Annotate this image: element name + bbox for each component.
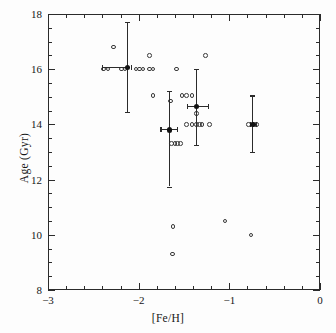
- x-major-tick-bottom: [139, 283, 140, 290]
- data-point-open-circle: [249, 233, 254, 238]
- x-minor-tick-bottom: [193, 286, 194, 290]
- y-minor-tick-right: [316, 276, 320, 277]
- x-minor-tick-bottom: [175, 286, 176, 290]
- x-minor-tick-top: [157, 14, 158, 18]
- y-minor-tick-left: [48, 221, 52, 222]
- error-bar-cap-bottom: [194, 145, 199, 146]
- x-minor-tick-top: [266, 14, 267, 18]
- x-minor-tick-top: [284, 14, 285, 18]
- y-minor-tick-left: [48, 166, 52, 167]
- y-minor-tick-right: [316, 207, 320, 208]
- data-point-open-circle: [178, 141, 183, 146]
- y-minor-tick-left: [48, 207, 52, 208]
- y-major-tick-right: [313, 180, 320, 181]
- y-minor-tick-left: [48, 55, 52, 56]
- y-tick-label: 18: [20, 8, 42, 20]
- y-minor-tick-right: [316, 166, 320, 167]
- error-bar-vertical: [169, 91, 170, 186]
- data-point-binned-mean: [167, 127, 172, 132]
- x-minor-tick-top: [84, 14, 85, 18]
- y-minor-tick-right: [316, 221, 320, 222]
- x-axis-title: [Fe/H]: [0, 312, 336, 324]
- x-major-tick-top: [48, 14, 49, 21]
- y-minor-tick-left: [48, 28, 52, 29]
- y-major-tick-left: [48, 124, 55, 125]
- data-point-open-circle: [184, 93, 189, 98]
- data-point-open-circle: [151, 93, 156, 98]
- y-minor-tick-left: [48, 193, 52, 194]
- x-tick-label: −1: [223, 294, 235, 306]
- x-minor-tick-bottom: [121, 286, 122, 290]
- data-point-open-circle: [190, 93, 195, 98]
- y-minor-tick-right: [316, 152, 320, 153]
- data-point-open-circle: [184, 122, 189, 127]
- x-minor-tick-bottom: [266, 286, 267, 290]
- y-minor-tick-right: [316, 249, 320, 250]
- y-minor-tick-left: [48, 97, 52, 98]
- data-point-open-circle: [141, 67, 146, 72]
- x-minor-tick-bottom: [247, 286, 248, 290]
- y-minor-tick-right: [316, 138, 320, 139]
- y-minor-tick-left: [48, 276, 52, 277]
- y-minor-tick-left: [48, 262, 52, 263]
- y-minor-tick-left: [48, 138, 52, 139]
- error-bar-cap-top: [250, 95, 255, 96]
- error-bar-cap-right: [208, 104, 209, 109]
- y-minor-tick-left: [48, 42, 52, 43]
- error-bar-cap-bottom: [250, 152, 255, 153]
- x-major-tick-bottom: [48, 283, 49, 290]
- x-minor-tick-bottom: [84, 286, 85, 290]
- x-minor-tick-top: [193, 14, 194, 18]
- x-minor-tick-bottom: [66, 286, 67, 290]
- y-minor-tick-right: [316, 55, 320, 56]
- y-major-tick-right: [313, 14, 320, 15]
- y-major-tick-left: [48, 290, 55, 291]
- y-major-tick-left: [48, 180, 55, 181]
- x-major-tick-bottom: [229, 283, 230, 290]
- data-point-open-circle: [171, 224, 176, 229]
- x-minor-tick-top: [121, 14, 122, 18]
- y-minor-tick-right: [316, 97, 320, 98]
- data-point-binned-mean: [194, 104, 199, 109]
- error-bar-cap-top: [194, 69, 199, 70]
- error-bar-cap-top: [167, 91, 172, 92]
- data-point-open-circle: [203, 53, 208, 58]
- y-minor-tick-right: [316, 83, 320, 84]
- data-point-open-circle: [111, 45, 116, 50]
- y-tick-label: 8: [20, 284, 42, 296]
- y-minor-tick-right: [316, 193, 320, 194]
- x-minor-tick-top: [211, 14, 212, 18]
- y-major-tick-left: [48, 14, 55, 15]
- y-major-tick-right: [313, 235, 320, 236]
- x-minor-tick-top: [102, 14, 103, 18]
- x-minor-tick-top: [175, 14, 176, 18]
- data-point-binned-mean: [250, 122, 255, 127]
- x-major-tick-top: [320, 14, 321, 21]
- x-minor-tick-bottom: [302, 286, 303, 290]
- data-point-open-circle: [147, 53, 152, 58]
- error-bar-cap-left: [187, 104, 188, 109]
- plot-area: [48, 14, 320, 290]
- x-major-tick-bottom: [320, 283, 321, 290]
- error-bar-cap-right: [177, 127, 178, 132]
- y-major-tick-right: [313, 124, 320, 125]
- y-minor-tick-right: [316, 111, 320, 112]
- y-minor-tick-left: [48, 249, 52, 250]
- y-minor-tick-right: [316, 28, 320, 29]
- x-tick-label: 0: [317, 294, 323, 306]
- error-bar-cap-bottom: [125, 112, 130, 113]
- x-minor-tick-bottom: [157, 286, 158, 290]
- data-point-open-circle: [170, 252, 175, 257]
- y-minor-tick-left: [48, 111, 52, 112]
- y-major-tick-left: [48, 69, 55, 70]
- y-minor-tick-left: [48, 83, 52, 84]
- y-major-tick-right: [313, 290, 320, 291]
- error-bar-cap-left: [102, 65, 103, 70]
- y-minor-tick-right: [316, 42, 320, 43]
- y-minor-tick-right: [316, 262, 320, 263]
- x-minor-tick-top: [247, 14, 248, 18]
- x-major-tick-top: [139, 14, 140, 21]
- data-point-open-circle: [174, 67, 179, 72]
- y-major-tick-left: [48, 235, 55, 236]
- data-point-open-circle: [151, 67, 156, 72]
